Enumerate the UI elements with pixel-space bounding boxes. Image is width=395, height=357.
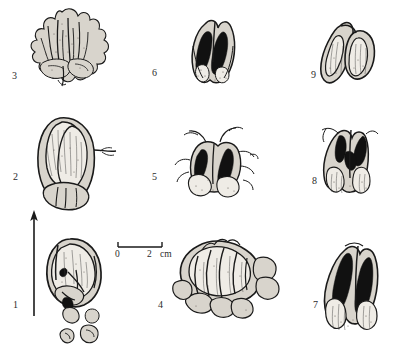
figure-1-drawing [47,239,101,343]
figure-4-drawing [173,239,279,318]
figure-label-5: 5 [152,172,157,182]
scale-bar-start-label: 0 [115,250,120,260]
figure-7-drawing [325,243,378,330]
specimen-plate: 1 2 3 4 5 6 7 8 9 0 2 cm [0,0,395,357]
figure-label-8: 8 [312,176,317,186]
orientation-arrow [30,210,38,316]
figure-2-drawing [38,118,116,210]
figure-label-4: 4 [158,300,163,310]
figure-6-drawing [192,21,234,83]
scale-bar-end-label: 2 [147,250,152,260]
figure-label-2: 2 [13,172,18,182]
plate-illustration [0,0,395,357]
figure-5-drawing [175,127,258,197]
figure-label-1: 1 [13,300,18,310]
scale-bar-unit-label: cm [160,250,172,260]
scale-bar-graphic [118,242,162,247]
figure-8-drawing [322,128,378,193]
figure-3-drawing [31,9,108,86]
figure-label-7: 7 [313,300,318,310]
figure-9-drawing [321,23,375,83]
figure-label-3: 3 [12,71,17,81]
figure-label-6: 6 [152,68,157,78]
figure-label-9: 9 [311,70,316,80]
